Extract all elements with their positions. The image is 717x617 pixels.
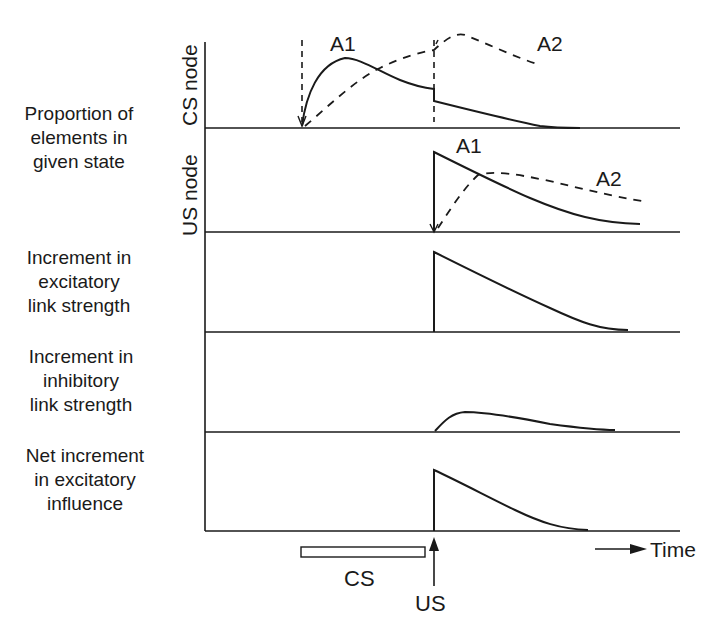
excitatory-curve (434, 252, 628, 332)
us-a2-label: A2 (596, 167, 622, 190)
cs-a1-label: A1 (330, 32, 356, 55)
us-a1-curve (434, 152, 640, 232)
time-axis-label: Time (650, 538, 696, 561)
diagram-canvas: A1 A2 A1 A2 CS US Time (0, 0, 717, 617)
cs-stimulus-bar (301, 547, 425, 557)
cs-stimulus-label: CS (344, 566, 375, 591)
us-arrow-icon (429, 537, 439, 551)
us-stimulus-label: US (415, 591, 446, 616)
inhibitory-curve (435, 412, 615, 431)
time-arrow-icon (630, 544, 647, 554)
us-a1-label: A1 (456, 134, 482, 157)
cs-a2-arrow (436, 40, 438, 44)
cs-a2-label: A2 (537, 32, 563, 55)
net-curve (434, 470, 588, 531)
